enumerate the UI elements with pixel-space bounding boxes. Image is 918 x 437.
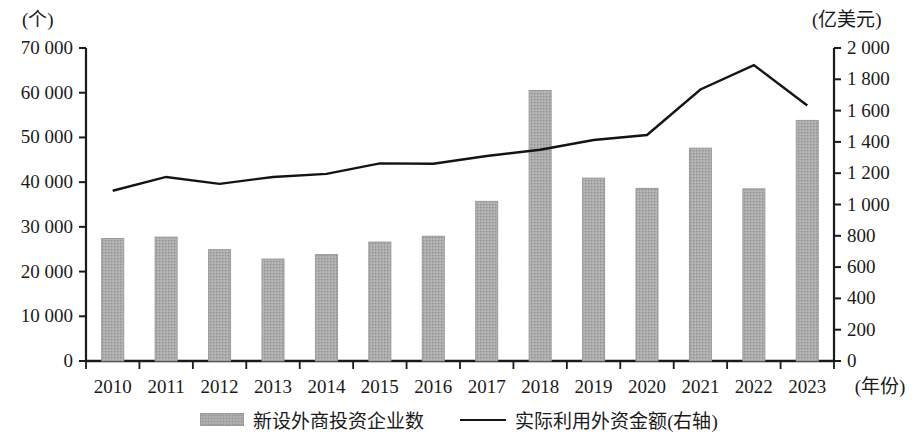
bar-2013	[262, 259, 284, 361]
bar-2021	[689, 148, 711, 361]
right-axis-tick-label: 1 000	[847, 195, 890, 214]
left-axis-tick-label: 40 000	[0, 172, 73, 191]
chart-legend: 新设外商投资企业数 实际利用外资金额(右轴)	[0, 406, 918, 433]
left-axis-unit-label: (个)	[22, 4, 54, 31]
bar-2019	[583, 178, 605, 361]
left-axis-tick-label: 50 000	[0, 127, 73, 146]
bar-2016	[422, 236, 444, 361]
legend-bar-label: 新设外商投资企业数	[253, 406, 424, 433]
right-axis-tick-label: 1 400	[847, 132, 890, 151]
bar-2015	[369, 242, 391, 361]
right-axis-unit-label: (亿美元)	[812, 4, 882, 31]
left-axis-tick-label: 10 000	[0, 306, 73, 325]
x-axis-tick-label-2023: 2023	[773, 377, 841, 396]
right-axis-tick-label: 1 600	[847, 101, 890, 120]
bar-2017	[476, 201, 498, 361]
right-axis-tick-label: 800	[847, 226, 876, 245]
bar-series	[102, 90, 819, 361]
bar-2011	[155, 237, 177, 361]
left-axis-tick-label: 70 000	[0, 38, 73, 57]
bar-2010	[102, 238, 124, 361]
right-axis-tick-label: 1 800	[847, 69, 890, 88]
bar-2023	[796, 120, 818, 361]
bar-2020	[636, 188, 658, 361]
axis-tick-marks	[79, 48, 841, 369]
right-axis-tick-label: 2 000	[847, 38, 890, 57]
left-axis-tick-label: 20 000	[0, 262, 73, 281]
left-axis-tick-label: 60 000	[0, 83, 73, 102]
axis-lines	[85, 48, 835, 361]
right-axis-tick-label: 1 200	[847, 163, 890, 182]
right-axis-tick-label: 200	[847, 320, 876, 339]
legend-item-line: 实际利用外资金额(右轴)	[460, 406, 718, 433]
bar-2022	[743, 189, 765, 361]
right-axis-tick-label: 0	[847, 351, 857, 370]
chart-plot-area	[0, 0, 918, 437]
right-axis-tick-label: 600	[847, 257, 876, 276]
left-axis-tick-label: 30 000	[0, 217, 73, 236]
bar-2018	[529, 90, 551, 361]
left-axis-tick-label: 0	[0, 351, 73, 370]
legend-bar-swatch-icon	[200, 413, 244, 426]
right-axis-tick-label: 400	[847, 288, 876, 307]
bar-2014	[315, 255, 337, 361]
x-axis-title: (年份)	[838, 377, 918, 396]
legend-line-label: 实际利用外资金额(右轴)	[515, 406, 718, 433]
bar-2012	[209, 250, 231, 361]
chart-figure: (个) (亿美元) 010 00020 00030 00040 00050 00…	[0, 0, 918, 437]
legend-item-bar: 新设外商投资企业数	[200, 406, 424, 433]
legend-line-swatch-icon	[460, 419, 506, 421]
